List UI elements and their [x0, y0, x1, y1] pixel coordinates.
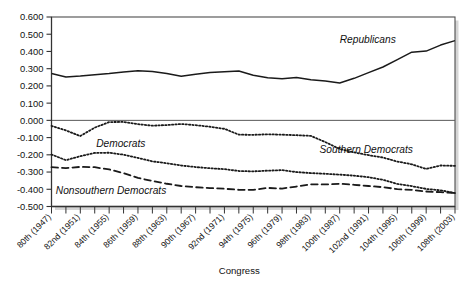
- y-axis-tick-label: 0.000: [20, 115, 43, 126]
- line-chart: 0.6000.5000.4000.3000.2000.1000.000-0.10…: [0, 0, 468, 298]
- series-label-republicans: Republicans: [340, 34, 396, 45]
- plot-frame: [52, 17, 456, 207]
- y-axis-tick-label: 0.400: [20, 46, 43, 57]
- y-axis-tick-label: 0.200: [20, 80, 43, 91]
- y-axis-tick-label: -0.400: [17, 184, 44, 195]
- y-axis-tick-label: 0.100: [20, 98, 43, 109]
- y-axis-tick-label: -0.100: [17, 132, 44, 143]
- y-axis-tick-label: 0.500: [20, 29, 43, 40]
- y-axis-tick-label: -0.300: [17, 166, 44, 177]
- y-axis-tick-label: 0.600: [20, 11, 43, 22]
- series-label-nonsouthern-democrats: Nonsouthern Democrats: [56, 185, 166, 196]
- series-label-democrats: Democrats: [96, 138, 145, 149]
- x-axis-title: Congress: [219, 265, 260, 276]
- figure-container: 0.6000.5000.4000.3000.2000.1000.000-0.10…: [0, 0, 468, 298]
- y-axis-tick-label: 0.300: [20, 63, 43, 74]
- y-axis-tick-label: -0.200: [17, 149, 44, 160]
- series-label-southern-democrats: Southern Democrats: [320, 144, 413, 155]
- y-axis-tick-label: -0.500: [17, 201, 44, 212]
